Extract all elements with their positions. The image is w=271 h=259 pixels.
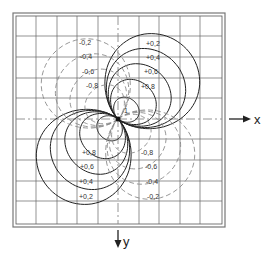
label-pos-08-ur: +0,8 <box>141 83 155 90</box>
positive-contour-line <box>36 109 131 204</box>
label-neg-08-lr: -0,8 <box>141 149 153 156</box>
label-pos-06-ur: +0,6 <box>144 68 158 75</box>
label-pos-08-ll: +0,8 <box>82 149 96 156</box>
label-neg-06-ul: -0,6 <box>82 68 94 75</box>
y-axis-label: y <box>123 234 130 249</box>
x-axis-arrow <box>229 116 251 123</box>
label-neg-06-lr: -0,6 <box>145 163 157 170</box>
x-axis-label: x <box>254 112 261 127</box>
label-pos-02-ll: +0,2 <box>79 193 93 200</box>
label-neg-04-ul: -0,4 <box>80 53 92 60</box>
center-label: 1 <box>124 107 128 114</box>
contour-diagram: +0,2 +0,4 +0,6 +0,8 +0,8 +0,6 +0,4 +0,2 … <box>0 0 271 259</box>
arrow-right-icon <box>243 116 251 123</box>
positive-labels-lower-left: +0,8 +0,6 +0,4 +0,2 <box>79 149 96 200</box>
label-neg-08-ul: -0,8 <box>86 82 98 89</box>
label-neg-02-lr: -0,2 <box>147 193 159 200</box>
center-point <box>116 117 121 122</box>
label-neg-04-lr: -0,4 <box>146 178 158 185</box>
label-pos-06-ll: +0,6 <box>80 163 94 170</box>
label-pos-02-ur: +0,2 <box>146 40 160 47</box>
label-pos-04-ur: +0,4 <box>146 54 160 61</box>
y-axis-arrow <box>115 230 122 248</box>
arrow-down-icon <box>115 240 122 248</box>
negative-labels-upper-left: -0,2 -0,4 -0,6 -0,8 <box>79 39 98 89</box>
label-neg-02-ul: -0,2 <box>79 39 91 46</box>
label-pos-04-ll: +0,4 <box>79 178 93 185</box>
positive-contour-line <box>105 34 200 129</box>
negative-labels-lower-right: -0,8 -0,6 -0,4 -0,2 <box>141 149 159 200</box>
